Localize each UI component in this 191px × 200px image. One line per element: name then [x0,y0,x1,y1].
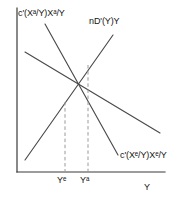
curve-label-cost-e: c'(Xᵉ/Y)Xᵉ/Y [120,151,167,160]
curve-label-cost-a: c'(Xᵃ/Y)Xᵃ/Y [18,9,65,18]
economics-diagram: c'(Xᵃ/Y)Xᵃ/Y nD'(Y)Y c'(Xᵉ/Y)Xᵉ/Y Yᵉ Yᵃ … [0,0,191,200]
x-tick-label-ye: Yᵉ [57,176,66,185]
curve-label-demand: nD'(Y)Y [89,17,120,26]
plot-area [0,0,191,200]
x-tick-label-ya: Yᵃ [80,176,89,185]
x-axis-label: Y [144,183,150,192]
